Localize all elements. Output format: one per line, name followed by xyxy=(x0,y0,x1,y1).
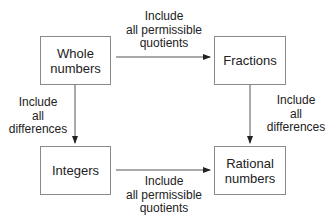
edge-label-left: Include all differences xyxy=(9,96,67,137)
edge-label-right: Include all differences xyxy=(267,94,325,135)
node-label: Fractions xyxy=(223,53,276,68)
node-integers: Integers xyxy=(40,146,111,195)
node-rational-numbers: Rational numbers xyxy=(214,146,286,195)
node-fractions: Fractions xyxy=(214,36,286,85)
edge-label-top: Include all permissible quotients xyxy=(126,10,202,51)
node-label: Integers xyxy=(52,163,99,178)
node-label: Rational xyxy=(225,156,276,171)
node-label: numbers xyxy=(225,171,276,186)
node-label: numbers xyxy=(50,61,101,76)
node-label: Whole xyxy=(50,46,101,61)
edge-label-bottom: Include all permissible quotients xyxy=(126,175,202,216)
node-whole-numbers: Whole numbers xyxy=(40,36,111,85)
